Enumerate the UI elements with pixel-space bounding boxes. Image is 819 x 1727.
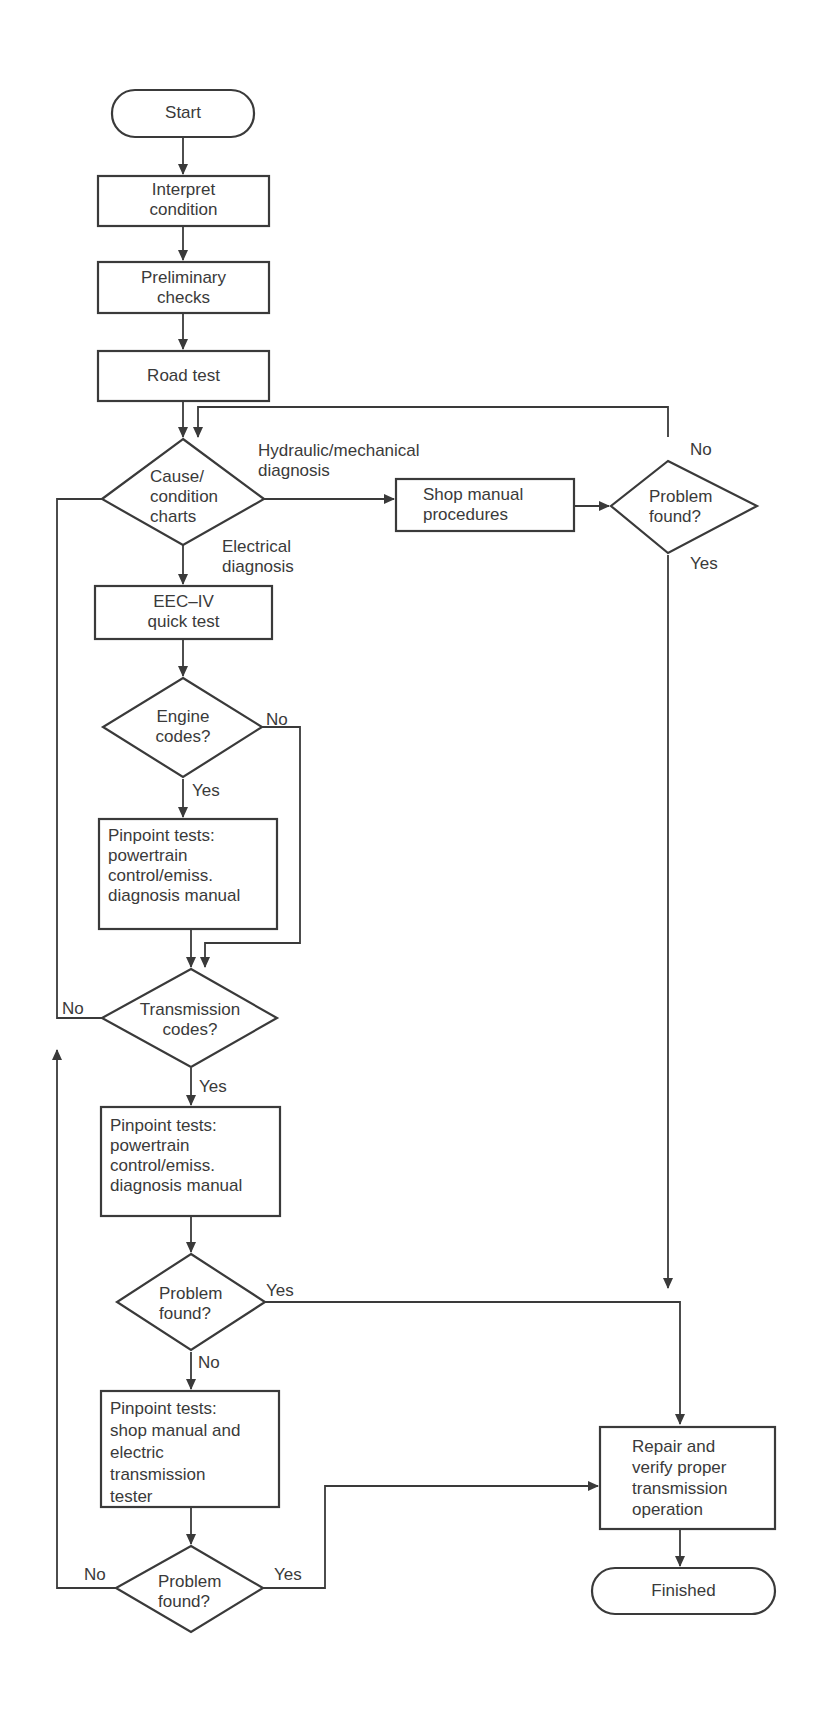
flowchart-canvas: Start Interpretcondition Preliminarychec… [0,0,819,1727]
label-transmission-codes: Transmissioncodes? [120,1000,260,1040]
edge-label-pf1-no: No [690,440,712,460]
edge-pf3-yes [263,1486,598,1588]
label-shop-manual-procedures: Shop manualprocedures [423,485,523,525]
edge-label-electrical: Electricaldiagnosis [222,537,294,577]
label-pinpoint-tests-1: Pinpoint tests:powertraincontrol/emiss.d… [108,826,240,906]
edge-label-engine-no: No [266,710,288,730]
label-eec-iv-quick-test: EEC–IVquick test [95,592,272,632]
edge-pf1-no-loop [198,407,668,437]
label-problem-found-1: Problemfound? [649,487,712,527]
edge-label-trans-yes: Yes [199,1077,227,1097]
label-repair-verify: Repair andverify propertransmissionopera… [632,1436,727,1520]
label-pinpoint-tests-2: Pinpoint tests:powertraincontrol/emiss.d… [110,1116,242,1196]
label-engine-codes: Enginecodes? [120,707,246,747]
label-problem-found-2: Problemfound? [159,1284,222,1324]
label-road-test: Road test [98,366,269,386]
label-finished: Finished [592,1581,775,1601]
label-start: Start [112,103,254,123]
edge-pf2-yes [265,1302,680,1424]
edge-label-pf2-no: No [198,1353,220,1373]
label-interpret-condition: Interpretcondition [98,180,269,220]
edge-label-trans-no: No [62,999,84,1019]
label-problem-found-3: Problemfound? [158,1572,221,1612]
label-pinpoint-tests-3: Pinpoint tests:shop manual andelectrictr… [110,1398,240,1508]
edge-label-pf2-yes: Yes [266,1281,294,1301]
label-cause-condition-charts: Cause/conditioncharts [150,467,218,527]
edge-label-engine-yes: Yes [192,781,220,801]
edge-label-hydraulic: Hydraulic/mechanicaldiagnosis [258,441,420,481]
edge-label-pf1-yes: Yes [690,554,718,574]
label-preliminary-checks: Preliminarychecks [98,268,269,308]
edge-trans-no [57,499,102,1018]
edge-label-pf3-no: No [84,1565,106,1585]
edge-label-pf3-yes: Yes [274,1565,302,1585]
